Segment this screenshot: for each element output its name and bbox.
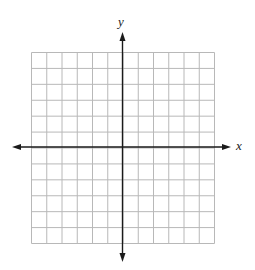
x-axis-left-arrow-icon bbox=[12, 144, 21, 150]
x-axis-label: x bbox=[236, 138, 242, 154]
y-axis-down-arrow-icon bbox=[120, 253, 126, 262]
y-axis-up-arrow-icon bbox=[120, 32, 126, 41]
x-axis bbox=[12, 144, 231, 150]
x-axis-right-arrow-icon bbox=[222, 144, 231, 150]
y-axis-label: y bbox=[118, 14, 124, 30]
coordinate-plane bbox=[0, 0, 255, 270]
